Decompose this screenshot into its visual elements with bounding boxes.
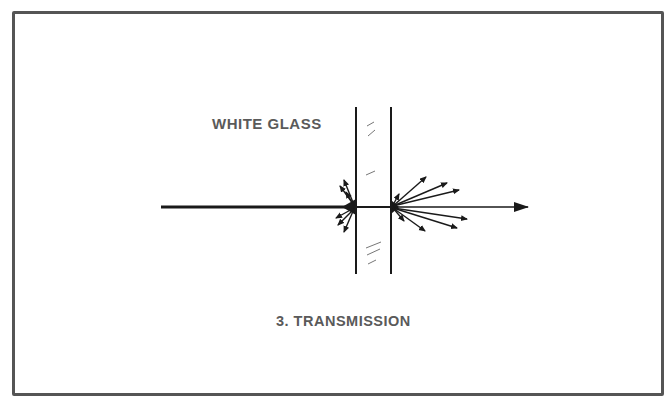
exit-scatter-arrows <box>391 177 467 231</box>
glass-pane <box>356 107 391 274</box>
figure-caption: 3. TRANSMISSION <box>276 313 411 329</box>
transmission-diagram <box>0 0 669 396</box>
glass-label: WHITE GLASS <box>212 115 322 132</box>
